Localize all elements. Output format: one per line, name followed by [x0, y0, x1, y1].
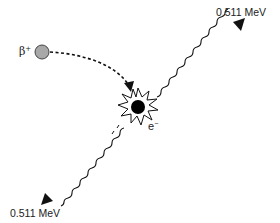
photon-wave-lower	[61, 128, 124, 206]
flash-tick	[117, 125, 119, 128]
photon-wave-upper	[157, 9, 228, 97]
photon-arrowhead-upper	[233, 18, 245, 31]
photon-energy-label-upper: 0.511 MeV	[216, 7, 266, 18]
positron-label: β+	[19, 46, 31, 57]
photon-arrowhead-lower	[41, 193, 53, 205]
positron-particle	[35, 45, 49, 59]
flash-tick	[112, 131, 114, 134]
annihilation-diagram	[0, 0, 280, 223]
electron-charge: −	[154, 120, 158, 127]
positron-charge: +	[25, 45, 31, 53]
electron-particle	[131, 100, 145, 114]
photon-energy-label-lower: 0.511 MeV	[10, 208, 60, 219]
electron-label: e−	[148, 120, 158, 132]
positron-trajectory	[50, 52, 128, 84]
